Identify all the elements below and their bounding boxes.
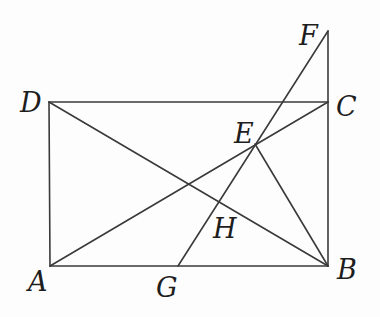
label-point-c: C (336, 91, 357, 122)
label-point-e: E (233, 118, 254, 149)
label-point-a: A (25, 266, 48, 297)
diagram-svg: A B C D E F G H (0, 0, 380, 317)
geometry-diagram: A B C D E F G H (0, 0, 380, 317)
label-point-h: H (212, 213, 237, 244)
label-point-d: D (19, 87, 42, 118)
label-point-f: F (298, 20, 319, 51)
label-point-g: G (156, 272, 178, 303)
segment-da (49, 102, 50, 266)
segment-eb (255, 144, 328, 266)
label-point-b: B (336, 254, 357, 285)
